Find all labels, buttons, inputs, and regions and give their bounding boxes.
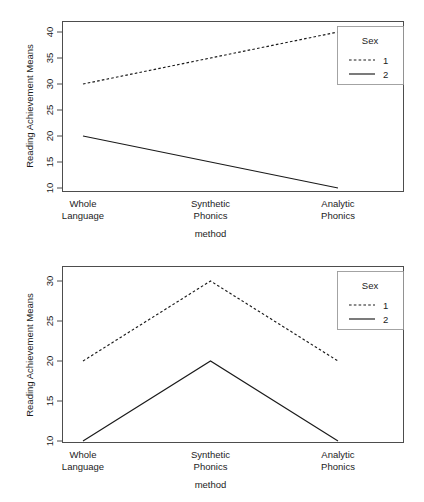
x-category-label-2-line1: Phonics — [321, 210, 355, 221]
y-tick-label-25: 25 — [44, 316, 55, 327]
series-line-1 — [83, 281, 338, 361]
y-tick-label-20: 20 — [44, 356, 55, 367]
interaction-plot-top: Reading Achievement Means 10 15 20 25 30… — [0, 0, 424, 251]
interaction-plot-bottom: Reading Achievement Means 10 15 20 25 30… — [0, 251, 424, 502]
x-category-label-0-line1: Language — [62, 210, 104, 221]
x-category-label-2-line1: Phonics — [321, 461, 355, 472]
x-axis-title: method — [195, 479, 227, 490]
y-tick-label-40: 40 — [44, 27, 55, 38]
y-tick-label-15: 15 — [44, 157, 55, 168]
legend-title: Sex — [362, 35, 379, 46]
legend-label-1: 1 — [383, 55, 388, 66]
y-tick-label-20: 20 — [44, 131, 55, 142]
legend-label-1: 1 — [383, 300, 388, 311]
y-tick-label-30: 30 — [44, 276, 55, 287]
y-axis-title: Reading Achievement Means — [24, 44, 35, 168]
x-category-label-1-line0: Synthetic — [191, 449, 230, 460]
y-tick-label-35: 35 — [44, 53, 55, 64]
y-tick-label-25: 25 — [44, 105, 55, 116]
plot-frame — [63, 267, 404, 443]
x-category-label-0-line1: Language — [62, 461, 104, 472]
legend-label-2: 2 — [383, 69, 388, 80]
y-axis-title: Reading Achievement Means — [24, 293, 35, 417]
series-line-2 — [83, 136, 338, 188]
series-line-2 — [83, 361, 338, 441]
y-tick-label-15: 15 — [44, 396, 55, 407]
series-line-1 — [83, 32, 338, 84]
x-category-label-2-line0: Analytic — [321, 198, 355, 209]
x-category-label-0-line0: Whole — [70, 198, 97, 209]
x-category-label-2-line0: Analytic — [321, 449, 355, 460]
figure-page: Reading Achievement Means 10 15 20 25 30… — [0, 0, 424, 502]
x-axis-title: method — [195, 228, 227, 239]
x-category-label-1-line1: Phonics — [194, 210, 228, 221]
legend-title: Sex — [362, 280, 379, 291]
x-category-label-0-line0: Whole — [70, 449, 97, 460]
y-tick-label-10: 10 — [44, 436, 55, 447]
y-tick-label-30: 30 — [44, 79, 55, 90]
y-tick-label-10: 10 — [44, 183, 55, 194]
plot-frame — [63, 22, 404, 192]
legend-label-2: 2 — [383, 314, 388, 325]
x-category-label-1-line0: Synthetic — [191, 198, 230, 209]
x-category-label-1-line1: Phonics — [194, 461, 228, 472]
